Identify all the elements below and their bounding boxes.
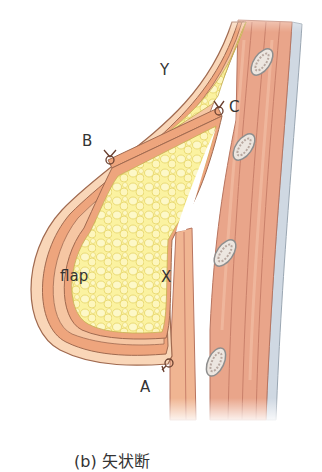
label-flap: flap bbox=[60, 269, 88, 284]
label-a: A bbox=[140, 380, 150, 395]
sagittal-section-diagram: Y B C X A flap (b) 矢状断 bbox=[0, 0, 322, 472]
label-x: X bbox=[161, 270, 171, 285]
label-y: Y bbox=[160, 63, 169, 78]
label-b: B bbox=[82, 134, 92, 149]
label-c: C bbox=[229, 100, 239, 115]
figure-caption: (b) 矢状断 bbox=[74, 448, 150, 472]
